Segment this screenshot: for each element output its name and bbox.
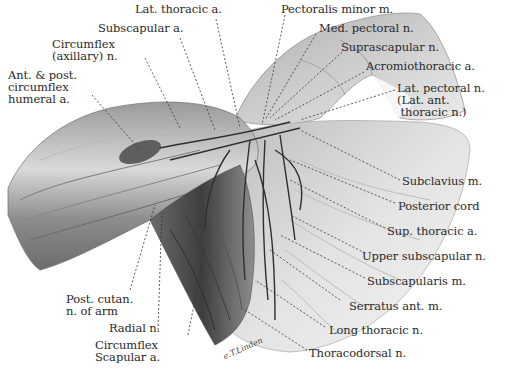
label-med-pectoral-n: Med. pectoral n. [319, 22, 414, 34]
label-acromiothoracic-a: Acromiothoracic a. [366, 60, 475, 72]
label-subscapularis-m: Subscapularis m. [367, 275, 466, 287]
label-circumflex-scapular-a: Circumflex Scapular a. [95, 339, 160, 363]
label-circumflex-axillary-n: Circumflex (axillary) n. [52, 38, 118, 62]
label-long-thoracic-n: Long thoracic n. [329, 324, 423, 336]
label-serratus-ant-m: Serratus ant. m. [349, 300, 442, 312]
label-pectoralis-minor-m: Pectoralis minor m. [281, 3, 393, 15]
label-post-cutan-n-of-arm: Post. cutan. n. of arm [66, 293, 133, 317]
label-posterior-cord: Posterior cord [398, 200, 480, 212]
label-thoracodorsal-n: Thoracodorsal n. [309, 347, 406, 359]
label-radial-n: Radial n. [109, 322, 160, 334]
label-subclavius-m: Subclavius m. [402, 175, 482, 187]
label-suprascapular-n: Suprascapular n. [341, 41, 439, 53]
label-ant-post-circumflex-humeral-a: Ant. & post. circumflex humeral a. [8, 69, 77, 105]
label-lat-thoracic-a: Lat. thoracic a. [135, 3, 222, 15]
label-lat-pectoral-n: Lat. pectoral n. (Lat. ant. thoracic n.) [397, 82, 485, 118]
anatomy-figure: Lat. thoracic a. Subscapular a. Circumfl… [0, 0, 520, 374]
label-upper-subscapular-n: Upper subscapular n. [362, 250, 486, 262]
label-subscapular-a: Subscapular a. [98, 22, 183, 34]
label-sup-thoracic-a: Sup. thoracic a. [387, 225, 477, 237]
